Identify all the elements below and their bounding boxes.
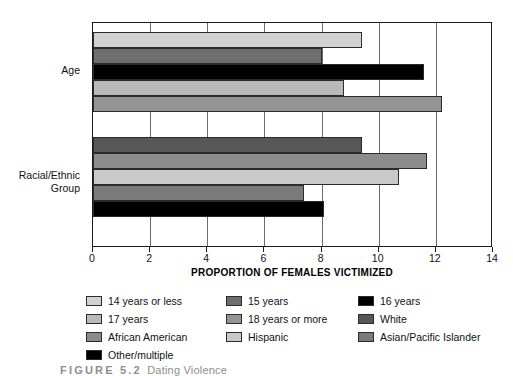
legend-item-empty [358, 350, 498, 360]
bar-18-years-or-more [93, 96, 442, 112]
category-label-age: Age [0, 64, 80, 77]
legend-item-17-years[interactable]: 17 years [86, 313, 226, 325]
legend-item-empty [226, 350, 358, 360]
plot-area [92, 22, 492, 247]
x-tick-label: 10 [372, 252, 384, 264]
x-tick-label: 12 [429, 252, 441, 264]
x-tick-label: 0 [89, 252, 95, 264]
legend-swatch-icon [86, 350, 102, 360]
legend-item-asian-pacific-islander[interactable]: Asian/Pacific Islander [358, 331, 498, 343]
chart-legend: 14 years or less15 years16 years17 years… [86, 292, 498, 364]
legend-swatch-icon [358, 296, 374, 306]
legend-row: 14 years or less15 years16 years [86, 292, 498, 310]
legend-label: African American [108, 331, 187, 343]
legend-swatch-icon [226, 296, 242, 306]
legend-item-white[interactable]: White [358, 313, 498, 325]
bar-asian-pacific-islander [93, 185, 304, 201]
bar-17-years [93, 80, 344, 96]
legend-item-hispanic[interactable]: Hispanic [226, 331, 358, 343]
legend-label: Asian/Pacific Islander [380, 331, 480, 343]
legend-label: 15 years [248, 295, 288, 307]
legend-swatch-icon [358, 332, 374, 342]
legend-label: Other/multiple [108, 349, 173, 361]
bar-other-multiple [93, 201, 324, 217]
x-tick-label: 6 [261, 252, 267, 264]
legend-swatch-icon [358, 314, 374, 324]
legend-swatch-icon [86, 332, 102, 342]
legend-label: 17 years [108, 313, 148, 325]
caption-number: 5.2 [120, 364, 142, 376]
legend-label: 16 years [380, 295, 420, 307]
caption-text: Dating Violence [147, 364, 227, 376]
bar-white [93, 137, 362, 153]
legend-row: 17 years18 years or moreWhite [86, 310, 498, 328]
legend-label: 14 years or less [108, 295, 182, 307]
legend-item-16-years[interactable]: 16 years [358, 295, 498, 307]
category-label-racial-ethnic-group: Racial/Ethnic Group [0, 169, 80, 194]
caption-prefix: FIGURE [60, 364, 115, 376]
bar-hispanic [93, 169, 399, 185]
legend-label: Hispanic [248, 331, 288, 343]
x-tick-label: 8 [318, 252, 324, 264]
legend-item-other-multiple[interactable]: Other/multiple [86, 349, 226, 361]
legend-row: Other/multiple [86, 346, 498, 364]
bar-african-american [93, 153, 427, 169]
legend-item-14-years-or-less[interactable]: 14 years or less [86, 295, 226, 307]
bar-14-years-or-less [93, 32, 362, 48]
legend-item-african-american[interactable]: African American [86, 331, 226, 343]
legend-swatch-icon [226, 332, 242, 342]
x-axis-title: PROPORTION OF FEMALES VICTIMIZED [92, 267, 492, 278]
x-tick-label: 2 [146, 252, 152, 264]
x-axis: 02468101214 [92, 247, 492, 257]
legend-item-15-years[interactable]: 15 years [226, 295, 358, 307]
legend-row: African AmericanHispanicAsian/Pacific Is… [86, 328, 498, 346]
bars-layer [93, 23, 491, 246]
x-tick-label: 14 [486, 252, 498, 264]
legend-swatch-icon [86, 314, 102, 324]
legend-label: White [380, 313, 407, 325]
x-tick-label: 4 [203, 252, 209, 264]
legend-item-18-years-or-more[interactable]: 18 years or more [226, 313, 358, 325]
legend-label: 18 years or more [248, 313, 327, 325]
legend-swatch-icon [226, 314, 242, 324]
figure-caption: FIGURE 5.2 Dating Violence [60, 364, 227, 376]
bar-16-years [93, 64, 424, 80]
bar-15-years [93, 48, 322, 64]
legend-swatch-icon [86, 296, 102, 306]
